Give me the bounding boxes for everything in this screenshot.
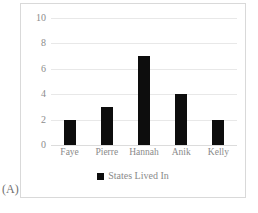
legend-entry-states-lived-in[interactable]: States Lived In xyxy=(97,171,169,181)
chart-panel: 10 8 6 4 2 0 xyxy=(20,3,246,198)
x-tick-label-pierre: Pierre xyxy=(88,147,125,157)
bar-pierre[interactable] xyxy=(101,107,113,145)
x-tick-label-faye: Faye xyxy=(51,147,88,157)
x-tick-label-kelly: Kelly xyxy=(200,147,237,157)
bar-group xyxy=(51,18,237,145)
bar-slot-hannah xyxy=(125,18,162,145)
bar-anik[interactable] xyxy=(175,94,187,145)
y-tick-label-10: 10 xyxy=(36,13,46,23)
bar-slot-kelly xyxy=(200,18,237,145)
legend-label-states-lived-in: States Lived In xyxy=(108,171,169,181)
bar-slot-anik xyxy=(163,18,200,145)
y-tick-label-0: 0 xyxy=(41,140,46,150)
bar-slot-faye xyxy=(51,18,88,145)
plot-area: 10 8 6 4 2 0 xyxy=(51,18,237,145)
bar-slot-pierre xyxy=(88,18,125,145)
legend-swatch-icon xyxy=(97,173,104,180)
x-tick-label-hannah: Hannah xyxy=(125,147,162,157)
y-tick-label-6: 6 xyxy=(41,64,46,74)
y-tick-label-2: 2 xyxy=(41,115,46,125)
y-tick-label-4: 4 xyxy=(41,89,46,99)
chart-legend: States Lived In xyxy=(21,171,245,181)
x-tick-label-anik: Anik xyxy=(163,147,200,157)
gridline-0-baseline: 0 xyxy=(51,145,237,146)
bar-kelly[interactable] xyxy=(212,120,224,145)
bar-faye[interactable] xyxy=(64,120,76,145)
bar-hannah[interactable] xyxy=(138,56,150,145)
x-axis-labels: Faye Pierre Hannah Anik Kelly xyxy=(51,147,237,157)
panel-caption: (A) xyxy=(2,183,19,195)
y-tick-label-8: 8 xyxy=(41,38,46,48)
